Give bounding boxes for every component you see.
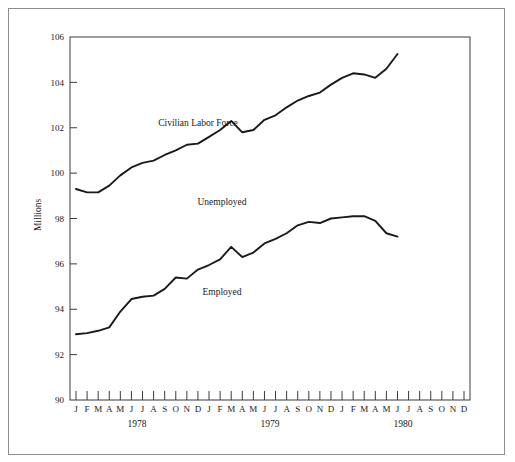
x-axis-month-label: J	[340, 404, 344, 414]
x-axis-month-label: M	[227, 404, 235, 414]
x-axis-month-label: M	[360, 404, 368, 414]
annotation-employed: Employed	[202, 287, 241, 297]
x-axis-month-label: J	[130, 404, 134, 414]
x-axis-month-label: J	[141, 404, 145, 414]
y-axis-tick-label: 96	[55, 259, 65, 269]
y-axis-tick-label: 106	[51, 32, 65, 42]
x-axis-month-label: S	[295, 404, 300, 414]
y-axis-tick-label: 98	[55, 214, 65, 224]
x-axis-month-label: O	[173, 404, 180, 414]
x-axis-month-label: A	[283, 404, 290, 414]
annotation-civilian-labor-force: Civilian Labor Force	[158, 118, 238, 128]
series-line-employed	[76, 216, 397, 334]
x-axis-month-label: D	[328, 404, 335, 414]
x-axis-month-label: M	[116, 404, 124, 414]
y-axis-tick-label: 92	[55, 350, 64, 360]
x-axis-year-label: 1980	[394, 419, 413, 429]
x-axis-month-label: F	[218, 404, 223, 414]
x-axis-month-label: O	[306, 404, 313, 414]
annotation-unemployed: Unemployed	[197, 197, 246, 207]
x-axis-month-label: S	[428, 404, 433, 414]
x-axis-month-label: S	[162, 404, 167, 414]
x-axis-month-label: J	[396, 404, 400, 414]
x-axis-month-label: A	[416, 404, 423, 414]
x-axis-month-label: A	[106, 404, 113, 414]
x-axis-month-label: A	[150, 404, 157, 414]
line-chart: 1061041021009896949290MillionsJFMAMJJASO…	[0, 0, 515, 462]
x-axis-month-label: D	[461, 404, 468, 414]
x-axis-month-label: M	[382, 404, 390, 414]
x-axis-month-label: J	[274, 404, 278, 414]
x-axis-month-label: M	[249, 404, 257, 414]
x-axis-month-label: J	[74, 404, 78, 414]
x-axis-month-label: N	[317, 404, 324, 414]
x-axis-month-label: F	[351, 404, 356, 414]
y-axis-tick-label: 100	[51, 168, 65, 178]
y-axis-tick-label: 104	[51, 78, 65, 88]
y-axis-title: Millions	[33, 199, 43, 232]
x-axis-month-label: M	[94, 404, 102, 414]
plot-area-border	[70, 37, 470, 400]
x-axis-month-label: J	[407, 404, 411, 414]
x-axis-month-label: D	[195, 404, 202, 414]
y-axis-tick-label: 94	[55, 304, 65, 314]
x-axis-month-label: J	[263, 404, 267, 414]
x-axis-year-label: 1978	[127, 419, 146, 429]
x-axis-month-label: N	[184, 404, 191, 414]
x-axis-year-label: 1979	[261, 419, 280, 429]
y-axis-tick-label: 90	[55, 395, 65, 405]
chart-figure: 1061041021009896949290MillionsJFMAMJJASO…	[0, 0, 515, 462]
x-axis-month-label: J	[207, 404, 211, 414]
y-axis-tick-label: 102	[51, 123, 65, 133]
x-axis-month-label: A	[239, 404, 246, 414]
x-axis-month-label: F	[85, 404, 90, 414]
x-axis-month-label: O	[439, 404, 446, 414]
x-axis-month-label: A	[372, 404, 379, 414]
x-axis-month-label: N	[450, 404, 457, 414]
